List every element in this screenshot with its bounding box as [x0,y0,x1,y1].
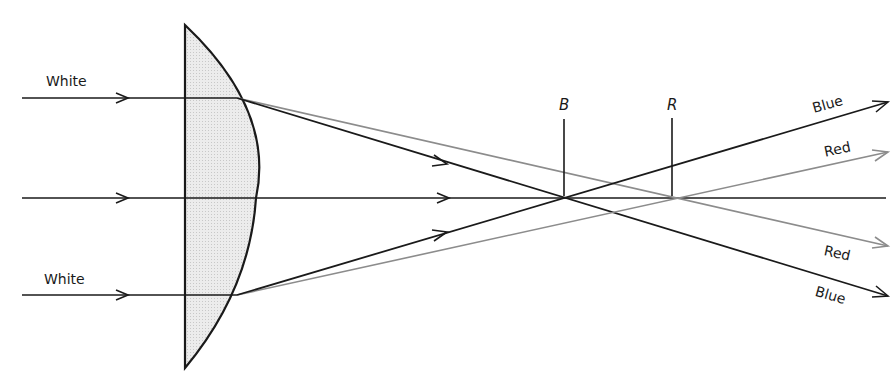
label-incoming-top: White [46,73,87,89]
label-incoming-bottom: White [44,271,85,287]
label-focus-red: R [667,96,677,114]
label-focus-blue: B [559,96,569,114]
lens [185,25,259,368]
diagram-canvas [0,0,896,385]
